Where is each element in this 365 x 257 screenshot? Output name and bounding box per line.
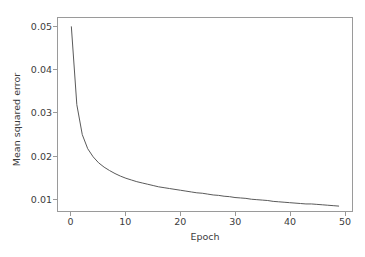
y-axis-label: Mean squared error	[11, 60, 22, 180]
matplotlib-figure: · · · · · · Mean squared error 0.010.020…	[0, 0, 365, 257]
plot-area	[57, 17, 353, 212]
y-tick-label: 0.04	[4, 64, 52, 75]
x-tick-label: 0	[50, 216, 90, 227]
clipped-text-fragment: · · · · · ·	[0, 0, 365, 4]
x-tick-label: 30	[215, 216, 255, 227]
x-axis-label: Epoch	[57, 231, 353, 242]
x-tick-label: 10	[105, 216, 145, 227]
x-tick-label: 50	[325, 216, 365, 227]
y-tick-label: 0.05	[4, 20, 52, 31]
x-tick-label: 40	[270, 216, 310, 227]
y-tick-label: 0.03	[4, 107, 52, 118]
y-tick-label: 0.02	[4, 150, 52, 161]
line-chart-svg	[58, 18, 352, 211]
x-tick-label: 20	[160, 216, 200, 227]
y-tick-label: 0.01	[4, 193, 52, 204]
series-line-mean-squared-error	[71, 27, 338, 206]
